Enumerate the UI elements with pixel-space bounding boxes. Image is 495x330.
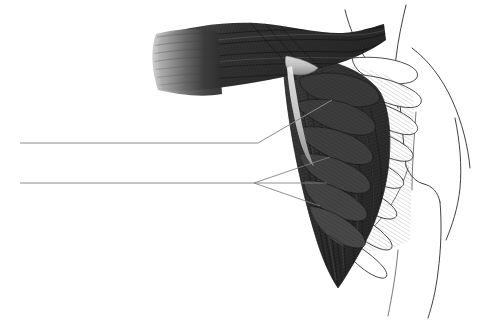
anatomy-figure bbox=[0, 0, 495, 330]
anatomy-illustration bbox=[0, 0, 495, 330]
cut-fiber-fan-group bbox=[152, 29, 222, 95]
pectoralis-major-cut-fibers bbox=[152, 29, 222, 95]
